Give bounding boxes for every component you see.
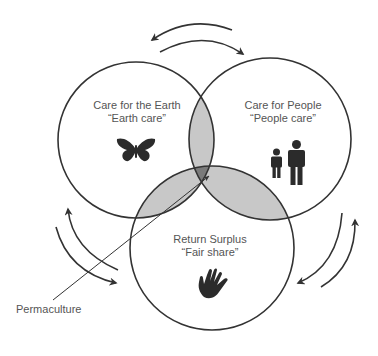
cycle-arrows-right bbox=[298, 213, 355, 287]
arrow-icon bbox=[298, 213, 342, 283]
arrow-icon bbox=[160, 40, 243, 54]
permaculture-label: Permaculture bbox=[16, 303, 81, 316]
cycle-arrows-left bbox=[56, 209, 118, 283]
fair-share-title: Return Surplus bbox=[160, 233, 260, 246]
people-care-subtitle: “People care” bbox=[228, 112, 338, 125]
cycle-arrows-top bbox=[152, 24, 243, 54]
permaculture-venn-diagram: Care for the Earth “Earth care” Care for… bbox=[0, 0, 378, 356]
butterfly-icon bbox=[117, 138, 155, 161]
earth-care-subtitle: “Earth care” bbox=[76, 112, 198, 125]
arrow-icon bbox=[56, 227, 116, 283]
earth-care-title: Care for the Earth bbox=[76, 99, 198, 112]
people-care-title: Care for People bbox=[228, 99, 338, 112]
fair-share-label: Return Surplus “Fair share” bbox=[160, 233, 260, 259]
arrow-icon bbox=[321, 220, 355, 287]
fair-share-subtitle: “Fair share” bbox=[160, 246, 260, 259]
permaculture-label-text: Permaculture bbox=[16, 303, 81, 316]
hand-icon bbox=[199, 269, 228, 299]
people-icon bbox=[271, 140, 305, 185]
arrow-icon bbox=[152, 24, 232, 40]
people-care-label: Care for People “People care” bbox=[228, 99, 338, 125]
earth-care-label: Care for the Earth “Earth care” bbox=[76, 99, 198, 125]
arrow-icon bbox=[68, 209, 118, 270]
